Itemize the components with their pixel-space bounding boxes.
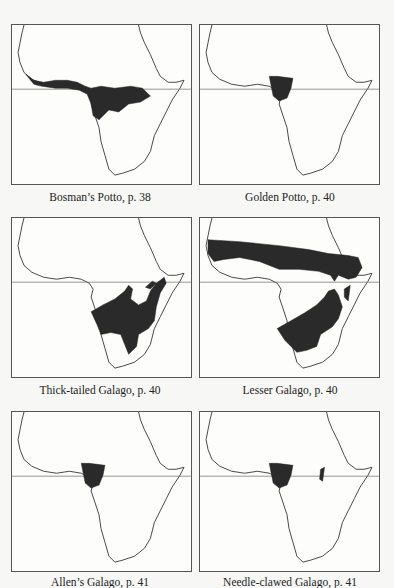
- africa-map: [12, 218, 191, 377]
- caption-golden-potto: Golden Potto, p. 40: [195, 191, 385, 203]
- map-panel-lesser-galago: [199, 217, 380, 378]
- africa-map: [12, 412, 191, 571]
- caption-needle-clawed-galago: Needle-clawed Galago, p. 41: [195, 576, 385, 588]
- map-panel-golden-potto: [199, 24, 380, 185]
- africa-map: [200, 412, 379, 571]
- africa-map: [200, 25, 379, 184]
- caption-allens-galago: Allen’s Galago, p. 41: [5, 576, 195, 588]
- map-panel-needle-clawed-galago: [199, 411, 380, 572]
- map-panel-thick-tailed-galago: [11, 217, 192, 378]
- caption-lesser-galago: Lesser Galago, p. 40: [195, 384, 385, 396]
- map-panel-bosmans-potto: [11, 24, 192, 185]
- caption-bosmans-potto: Bosman’s Potto, p. 38: [5, 191, 195, 203]
- africa-map: [200, 218, 379, 377]
- caption-thick-tailed-galago: Thick-tailed Galago, p. 40: [5, 384, 195, 396]
- africa-map: [12, 25, 191, 184]
- map-panel-allens-galago: [11, 411, 192, 572]
